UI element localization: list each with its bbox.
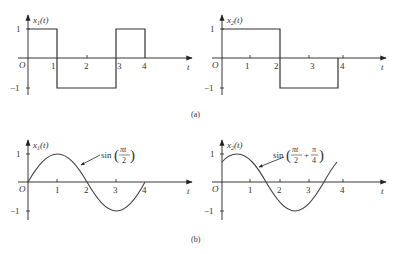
svg-text:+: + xyxy=(304,150,309,160)
y-tick-neg1: −1 xyxy=(204,206,214,216)
x-tick-1: 1 xyxy=(248,185,253,195)
x-tick-1: 1 xyxy=(245,61,250,71)
y-tick-1: 1 xyxy=(16,149,21,159)
x-tick-2: 2 xyxy=(84,61,89,71)
panel-a-right: x2(t) 1 −1 O 1 2 3 4 t xyxy=(204,15,386,95)
square-wave-x1 xyxy=(28,29,145,88)
y-tick-1: 1 xyxy=(210,24,215,34)
x-tick-1: 1 xyxy=(51,61,56,71)
caption-b: (b) xyxy=(191,235,201,244)
svg-text:πt: πt xyxy=(120,145,127,154)
x-tick-3: 3 xyxy=(113,185,118,195)
origin-label: O xyxy=(19,60,26,70)
x-axis-label: t xyxy=(187,186,190,196)
svg-text:πt: πt xyxy=(292,145,299,154)
y-axis-label: x1(t) xyxy=(32,15,49,26)
signal-figure: x1(t) 1 −1 O 1 2 3 4 t x2(t) 1 −1 O 1 2 … xyxy=(0,0,398,254)
x-axis-label: t xyxy=(187,62,190,72)
svg-text:2: 2 xyxy=(122,156,126,165)
panel-b-left: sin ( πt 2 ) x1(t) 1 −1 O 1 2 3 4 t xyxy=(10,140,192,220)
panel-b-right: sin ( πt 2 + π 4 ) x2(t) 1 −1 O 1 2 3 4 … xyxy=(204,140,386,220)
y-tick-1: 1 xyxy=(16,24,21,34)
y-tick-neg1: −1 xyxy=(10,206,20,216)
svg-text:(: ( xyxy=(114,147,119,164)
x-tick-3: 3 xyxy=(306,185,311,195)
x-tick-4: 4 xyxy=(142,185,147,195)
x-tick-2: 2 xyxy=(84,185,89,195)
y-axis-label: x2(t) xyxy=(226,140,243,151)
square-wave-x2 xyxy=(222,29,338,88)
svg-text:): ) xyxy=(319,147,324,164)
caption-a: (a) xyxy=(191,110,200,119)
x-axis-label: t xyxy=(381,62,384,72)
x-tick-4: 4 xyxy=(340,61,345,71)
x-tick-2: 2 xyxy=(274,61,279,71)
annotation-sin-pi-t-over-2: sin ( πt 2 ) xyxy=(101,145,135,165)
origin-label: O xyxy=(212,60,219,70)
x-tick-1: 1 xyxy=(55,185,60,195)
annotation-arrow xyxy=(81,155,100,165)
x-tick-4: 4 xyxy=(142,61,147,71)
x-tick-4: 4 xyxy=(340,185,345,195)
svg-text:sin: sin xyxy=(101,150,112,160)
origin-label: O xyxy=(212,184,219,194)
svg-text:4: 4 xyxy=(312,156,316,165)
y-tick-neg1: −1 xyxy=(10,83,20,93)
y-axis-label: x1(t) xyxy=(32,140,49,151)
y-tick-1: 1 xyxy=(210,149,215,159)
x-tick-3: 3 xyxy=(310,61,315,71)
x-tick-3: 3 xyxy=(117,61,122,71)
x-tick-2: 2 xyxy=(277,185,282,195)
y-axis-label: x2(t) xyxy=(226,15,243,26)
svg-text:2: 2 xyxy=(294,156,298,165)
panel-a-left: x1(t) 1 −1 O 1 2 3 4 t xyxy=(10,15,192,95)
y-tick-neg1: −1 xyxy=(204,83,214,93)
annotation-sin-pi-t-over-2-plus-pi-over-4: sin ( πt 2 + π 4 ) xyxy=(273,145,324,165)
origin-label: O xyxy=(19,184,26,194)
svg-text:(: ( xyxy=(286,147,291,164)
x-axis-label: t xyxy=(381,186,384,196)
svg-text:sin: sin xyxy=(273,150,284,160)
svg-text:π: π xyxy=(312,145,316,154)
svg-text:): ) xyxy=(130,147,135,164)
